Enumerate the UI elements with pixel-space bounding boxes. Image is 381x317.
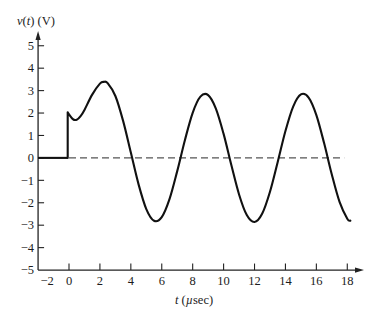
y-tick-label: −3 (21, 218, 34, 232)
y-tick-label: −5 (21, 263, 34, 277)
voltage-time-chart: −2024681012141618543210−1−2−3−4−5 v(t) (… (0, 0, 381, 317)
x-tick-label: 8 (190, 274, 196, 288)
y-tick-label: 5 (28, 39, 34, 53)
x-tick-label: 4 (128, 274, 135, 288)
y-axis-label: v(t) (V) (17, 14, 55, 28)
axes (35, 31, 364, 273)
x-tick-label: 6 (159, 274, 165, 288)
y-tick-label: −1 (21, 174, 34, 188)
x-tick-label: 2 (97, 274, 103, 288)
x-tick-label: 14 (279, 274, 292, 288)
x-tick-label: 18 (341, 274, 354, 288)
x-tick-label: 12 (248, 274, 261, 288)
x-axis-label: t (µsec) (175, 293, 213, 307)
label-part: sec) (193, 293, 213, 307)
label-part: ) (V) (30, 14, 55, 28)
y-tick-label: 1 (28, 129, 34, 143)
y-tick-label: −4 (21, 241, 35, 255)
label-part: µ (186, 293, 193, 307)
y-tick-label: 2 (28, 106, 34, 120)
chart-canvas: −2024681012141618543210−1−2−3−4−5 v(t) (… (0, 0, 381, 317)
y-tick-label: 3 (28, 84, 34, 98)
x-tick-label: −2 (40, 274, 53, 288)
y-axis-arrow-icon (35, 31, 40, 40)
tick-labels: −2024681012141618543210−1−2−3−4−5 (21, 39, 354, 288)
x-tick-label: 16 (310, 274, 323, 288)
x-axis-arrow-icon (355, 267, 364, 272)
y-tick-label: −2 (21, 196, 34, 210)
voltage-waveform-curve (68, 82, 351, 222)
y-tick-label: 0 (28, 151, 34, 165)
x-tick-label: 10 (217, 274, 230, 288)
y-tick-label: 4 (28, 61, 35, 75)
label-part: ( (178, 293, 185, 307)
x-tick-label: 0 (66, 274, 72, 288)
data-curves (38, 82, 350, 222)
